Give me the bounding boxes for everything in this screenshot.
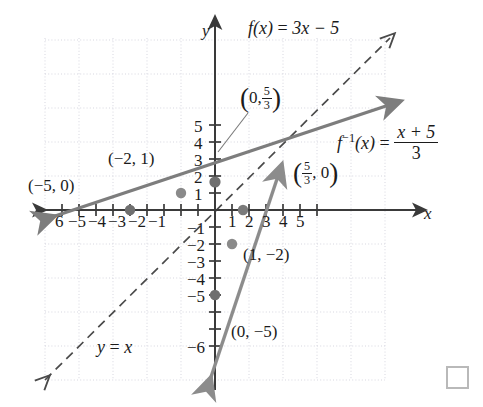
y-tick-label-neg5: −5 — [187, 288, 205, 305]
point-label-5-3-0: (53, 0) — [293, 161, 338, 187]
y-tick-label-neg6: −6 — [187, 339, 205, 356]
equation-finv-numerator: x + 5 — [394, 122, 438, 143]
equation-f-equals: = — [278, 18, 288, 38]
x-tick-label-neg4: −4 — [88, 213, 106, 230]
y-tick-label-neg3: −3 — [187, 254, 205, 271]
y-tick-label-2: 2 — [194, 169, 203, 186]
point-label-0-neg5: (0, −5) — [231, 323, 277, 340]
point-label-1-neg2: (1, −2) — [243, 246, 289, 263]
equation-finv-equals: = — [380, 133, 390, 153]
y-axis — [209, 22, 221, 390]
paren-close: ) — [272, 90, 281, 106]
x-tick-label-3: 3 — [262, 213, 271, 230]
math-figure: 6 −5 −4 −3 −2 −1 1 2 3 4 5 x 5 4 3 2 1 −… — [0, 0, 483, 407]
point-label-0-5-3-x: 0, — [249, 88, 262, 107]
x-tick-label-2: 2 — [245, 213, 254, 230]
fraction-numerator: 5 — [262, 85, 272, 99]
paren-open: ( — [240, 90, 249, 106]
point-label-neg2-1: (−2, 1) — [108, 150, 154, 167]
identity-equals: = — [110, 337, 120, 357]
point-label-0-5-3: (0,53) — [240, 86, 281, 112]
equation-f-rhs: 3x − 5 — [292, 18, 339, 38]
y-tick-label-neg2: −2 — [187, 237, 205, 254]
equation-f: f(x) = 3x − 5 — [248, 19, 339, 37]
y-tick-label-1: 1 — [194, 186, 203, 203]
leader-line-0-5-3 — [218, 113, 248, 152]
fraction-denominator: 3 — [302, 174, 312, 187]
fraction-numerator: 5 — [302, 160, 312, 174]
y-tick-label-3: 3 — [194, 152, 203, 169]
identity-lhs: y — [97, 337, 105, 357]
point-label-5-3-0-fraction: 53 — [302, 160, 312, 186]
y-tick-label-neg4: −4 — [187, 271, 205, 288]
fraction-denominator: 3 — [262, 99, 272, 112]
paren-open: ( — [293, 165, 302, 181]
point-1-neg2 — [227, 239, 237, 249]
x-tick-label-1: 1 — [228, 213, 237, 230]
point-neg2-1 — [176, 188, 186, 198]
point-label-neg5-0: (−5, 0) — [28, 177, 74, 194]
y-tick-label-neg1: −1 — [187, 220, 205, 237]
equation-finv-fraction: x + 5 3 — [394, 122, 438, 163]
point-0-5-3 — [209, 176, 220, 187]
x-tick-label-neg5: −5 — [68, 213, 86, 230]
equation-f-arg: (x) — [253, 18, 273, 38]
x-tick-label-neg6: 6 — [55, 213, 64, 230]
x-tick-label-4: 4 — [279, 213, 288, 230]
identity-rhs: x — [124, 337, 132, 357]
paren-close: ) — [329, 165, 338, 181]
x-tick-label-5: 5 — [296, 213, 305, 230]
point-label-5-3-0-y: , 0 — [312, 163, 329, 182]
equation-finv-arg: (x) — [355, 133, 375, 153]
point-0-neg5 — [210, 290, 220, 300]
graph-canvas — [0, 0, 483, 407]
y-tick-label-4: 4 — [194, 135, 203, 152]
y-tick-label-5: 5 — [194, 118, 203, 135]
x-axis-label: x — [424, 205, 432, 222]
point-label-0-5-3-fraction: 53 — [262, 85, 272, 111]
corner-marker-box — [446, 366, 469, 389]
equation-finv-superscript: −1 — [342, 131, 355, 145]
y-axis-label: y — [202, 22, 210, 39]
equation-finv-denominator: 3 — [394, 143, 438, 163]
x-tick-label-neg1: −1 — [148, 213, 166, 230]
x-tick-label-neg3: −3 — [108, 213, 126, 230]
label-y-equals-x: y = x — [97, 338, 132, 356]
equation-f-inverse: f−1(x) = x + 5 3 — [337, 124, 438, 165]
x-tick-label-neg2: −2 — [128, 213, 146, 230]
